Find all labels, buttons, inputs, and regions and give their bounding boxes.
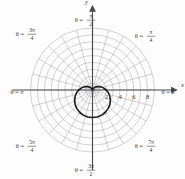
angle-label-lhs: θ = — [16, 142, 25, 149]
angle-label-denominator: 4 — [150, 147, 153, 153]
angle-label-lhs: θ = — [75, 16, 84, 23]
x-tick-2: 2 — [105, 93, 108, 100]
angle-label-lhs: θ = — [16, 30, 25, 37]
angle-label-numerator: π — [150, 29, 153, 35]
angle-label-denominator: 4 — [150, 37, 153, 43]
angle-label-numerator: π — [90, 13, 93, 19]
angle-label-numerator: 3π — [29, 27, 35, 33]
angle-label-theta-pi: θ = π — [10, 88, 24, 95]
x-axis-label: x — [180, 81, 184, 88]
polar-plot-figure: 2468yxθ = 0θ =π4θ =π2θ =3π4θ = πθ =5π4θ … — [0, 0, 185, 179]
angle-label-text: θ = 0 — [161, 88, 174, 95]
angle-label-numerator: 5π — [29, 139, 35, 145]
angle-label-theta-0: θ = 0 — [161, 88, 174, 95]
polar-plot-svg: 2468yxθ = 0θ =π4θ =π2θ =3π4θ = πθ =5π4θ … — [0, 0, 185, 179]
angle-label-denominator: 4 — [31, 35, 34, 41]
angle-label-numerator: 3π — [88, 163, 94, 169]
angle-label-denominator: 2 — [90, 21, 93, 27]
angle-label-denominator: 4 — [31, 147, 34, 153]
angle-label-lhs: θ = — [135, 32, 144, 39]
angle-label-text: θ = π — [10, 88, 24, 95]
angle-label-lhs: θ = — [75, 166, 84, 173]
angle-label-numerator: 7π — [148, 139, 154, 145]
angle-label-denominator: 2 — [90, 171, 93, 177]
angle-label-lhs: θ = — [135, 142, 144, 149]
